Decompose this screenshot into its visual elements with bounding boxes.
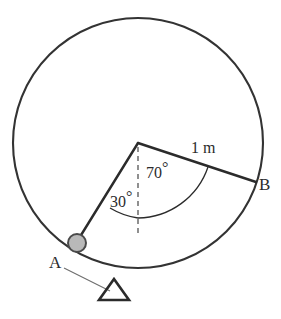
- triangular-support: [99, 279, 129, 300]
- label-angle-30: 30°: [110, 188, 132, 210]
- angle-30-degree-symbol: °: [126, 188, 132, 205]
- label-point-a: A: [49, 253, 62, 272]
- pendulum-diagram-svg: A B 1 m 70° 30°: [0, 0, 281, 319]
- support-leader-line: [64, 268, 110, 291]
- label-radius-length: 1 m: [191, 139, 216, 156]
- label-point-b: B: [259, 175, 270, 194]
- label-angle-70: 70°: [146, 159, 168, 181]
- angle-30-value: 30: [110, 193, 126, 210]
- pendulum-bob: [68, 234, 86, 252]
- angle-70-degree-symbol: °: [162, 159, 168, 176]
- angle-70-value: 70: [146, 164, 162, 181]
- diagram-root: A B 1 m 70° 30°: [0, 0, 281, 319]
